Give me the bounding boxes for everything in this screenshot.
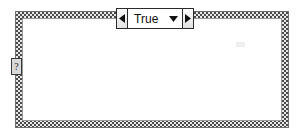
chevron-down-icon[interactable] bbox=[169, 16, 178, 22]
case-structure-frame[interactable] bbox=[16, 12, 288, 127]
previous-case-button[interactable] bbox=[117, 9, 128, 28]
right-triangle-icon bbox=[185, 14, 192, 23]
next-case-button[interactable] bbox=[182, 9, 193, 28]
case-selector-terminal[interactable]: ? bbox=[11, 58, 22, 75]
labview-block-diagram: { "diagram": { "kind": "labview-case-str… bbox=[0, 0, 302, 138]
case-selector-value-area[interactable]: True bbox=[128, 9, 182, 28]
question-mark-icon: ? bbox=[14, 62, 18, 72]
case-selector-label[interactable]: True bbox=[116, 8, 194, 29]
case-selector-value: True bbox=[134, 13, 159, 25]
left-triangle-icon bbox=[119, 14, 126, 23]
case-structure-interior[interactable] bbox=[22, 18, 282, 121]
